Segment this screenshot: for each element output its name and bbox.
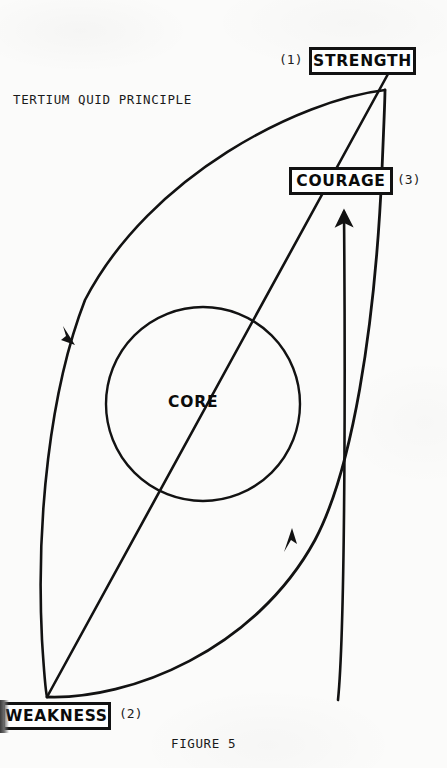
figure-page: TERTIUM QUID PRINCIPLE FIGURE 5 (1) STRE… [0,0,447,768]
callout-courage: (3) [397,172,420,187]
diagram-canvas [0,0,447,768]
page-title: TERTIUM QUID PRINCIPLE [13,92,192,107]
node-courage-label: COURAGE [296,172,385,190]
edge-core-to-courage-arrow [338,212,345,700]
node-weakness[interactable]: WEAKNESS [2,702,111,730]
callout-strength: (1) [279,52,302,67]
node-strength[interactable]: STRENGTH [309,47,416,75]
node-courage[interactable]: COURAGE [289,167,393,195]
arrowhead-up-right-arc [284,528,297,552]
node-strength-label: STRENGTH [313,52,412,70]
callout-weakness: (2) [119,706,142,721]
figure-caption: FIGURE 5 [171,736,236,751]
node-core-label: CORE [168,393,218,411]
node-weakness-label: WEAKNESS [5,707,107,725]
